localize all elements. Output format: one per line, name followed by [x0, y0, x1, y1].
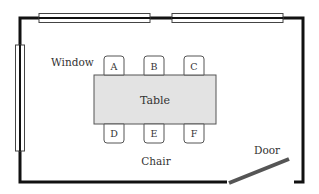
chair-label: B [151, 61, 158, 72]
chair-label: E [151, 128, 158, 139]
door [229, 159, 289, 183]
chair-label: F [191, 128, 198, 139]
chair-A: A [104, 56, 124, 75]
window-label: Window [51, 56, 94, 68]
chair-caption: Chair [141, 155, 171, 167]
chair-B: B [144, 56, 164, 75]
chair-F: F [184, 124, 204, 143]
door-label: Door [254, 144, 281, 156]
chair-label: C [190, 61, 197, 72]
floor-plan: Table A B C D E F Window Chair Door [0, 0, 319, 194]
chair-label: A [110, 61, 118, 72]
chair-label: D [110, 128, 118, 139]
chair-C: C [184, 56, 204, 75]
chair-D: D [104, 124, 124, 143]
chair-E: E [144, 124, 164, 143]
table-label: Table [140, 94, 170, 107]
